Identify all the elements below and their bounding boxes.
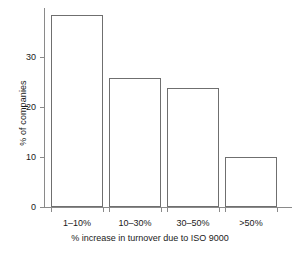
- x-tick-1: [103, 208, 104, 212]
- x-tick-3: [161, 208, 162, 212]
- y-tick-label-20: 20: [26, 102, 36, 112]
- x-tick-6: [225, 208, 226, 212]
- bar-series-item: [51, 15, 103, 207]
- bar-series-item: [109, 78, 161, 207]
- y-tick-30: 30: [40, 57, 44, 58]
- x-category-label-1: 10–30%: [118, 218, 151, 228]
- x-tick-7: [277, 208, 278, 212]
- x-category-label-2: 30–50%: [176, 218, 209, 228]
- x-category-label-3: >50%: [239, 218, 262, 228]
- bar-chart: % of companies 0 10 20 30 1–10%: [0, 0, 300, 255]
- x-tick-2: [109, 208, 110, 212]
- x-tick-0: [51, 208, 52, 212]
- y-axis-line: [44, 8, 45, 208]
- bar-series-item: [167, 88, 219, 207]
- x-tick-5: [219, 208, 220, 212]
- x-axis-title: % increase in turnover due to ISO 9000: [0, 233, 300, 243]
- x-tick-4: [167, 208, 168, 212]
- x-category-label-0: 1–10%: [63, 218, 91, 228]
- y-tick-20: 20: [40, 107, 44, 108]
- y-tick-0: 0: [40, 207, 44, 208]
- x-axis-line: [44, 207, 292, 208]
- y-tick-10: 10: [40, 157, 44, 158]
- y-tick-label-30: 30: [26, 52, 36, 62]
- bar-series-item: [225, 157, 277, 207]
- plot-area: 0 10 20 30 1–10% 10–30% 30–50% >50%: [44, 8, 292, 208]
- y-tick-label-0: 0: [31, 202, 36, 212]
- y-tick-label-10: 10: [26, 152, 36, 162]
